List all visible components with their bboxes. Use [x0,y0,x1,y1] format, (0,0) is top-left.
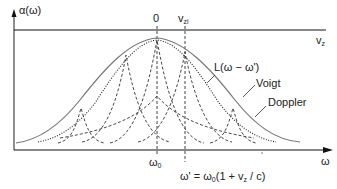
omega0-label: ω0 [149,157,162,169]
voigt-label: Voigt [256,78,280,89]
omega-prime-label: ω' = ω0(1 + vz / c) [180,171,265,183]
y-axis-arrow-icon [12,9,17,17]
voigt-leader [243,85,255,97]
lorentz-leader [207,75,215,83]
doppler-leader [255,106,266,117]
y-axis-label: α(ω) [19,5,41,16]
omega-axis-arrow-icon [323,147,333,153]
doppler-label: Doppler [268,97,307,108]
lorentz-label: L(ω − ω') [214,62,259,73]
vz-tick-zero: 0 [153,13,159,24]
vz-tick-vzi: vzi [178,13,189,25]
vz-axis-label: vz [316,35,325,47]
omega-axis-label: ω [321,156,330,167]
line-shape-diagram [0,0,337,189]
